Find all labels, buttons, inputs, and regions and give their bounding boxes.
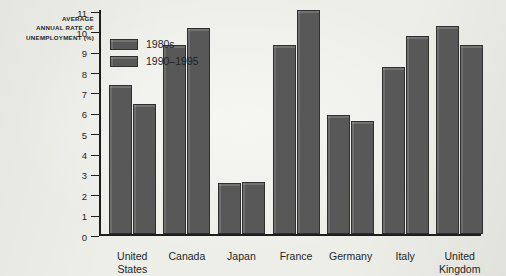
bar-group bbox=[273, 10, 320, 234]
y-axis-tick-label: 10 bbox=[76, 27, 87, 38]
bar bbox=[273, 45, 296, 234]
bar bbox=[382, 67, 405, 234]
bar bbox=[327, 115, 350, 234]
legend-label-series-0: 1980s bbox=[146, 38, 175, 50]
legend-item-series-1: 1990–1995 bbox=[110, 55, 199, 67]
bar bbox=[436, 26, 459, 234]
y-axis-tick: 4 bbox=[91, 155, 99, 156]
legend-swatch-icon-series-1 bbox=[110, 56, 138, 67]
bar bbox=[242, 182, 265, 234]
bar bbox=[351, 121, 374, 234]
y-axis-tick: 7 bbox=[91, 93, 99, 94]
y-axis-tick-label: 2 bbox=[82, 190, 87, 201]
y-axis-tick: 2 bbox=[91, 195, 99, 196]
legend: 1980s 1990–1995 bbox=[110, 38, 199, 72]
unemployment-bar-chart: AVERAGE ANNUAL RATE OF UNEMPLOYMENT (%) … bbox=[0, 0, 506, 276]
bar-group bbox=[382, 10, 429, 234]
y-axis-tick-label: 8 bbox=[82, 68, 87, 79]
bar-group bbox=[218, 10, 265, 234]
bar bbox=[218, 183, 241, 234]
y-axis-tick: 0 bbox=[91, 236, 99, 237]
bar bbox=[133, 104, 156, 234]
y-axis-tick: 1 bbox=[91, 216, 99, 217]
y-axis-tick-label: 9 bbox=[82, 48, 87, 59]
bar bbox=[297, 10, 320, 234]
y-axis-tick: 9 bbox=[91, 53, 99, 54]
y-axis-tick: 8 bbox=[91, 73, 99, 74]
y-axis-tick-label: 4 bbox=[82, 150, 87, 161]
x-axis-category-label: United Kingdom bbox=[418, 250, 501, 276]
y-axis-tick-label: 6 bbox=[82, 109, 87, 120]
legend-swatch-icon-series-0 bbox=[110, 39, 138, 50]
y-axis-tick-label: 0 bbox=[82, 231, 87, 242]
y-axis-tick-label: 3 bbox=[82, 170, 87, 181]
bar bbox=[406, 36, 429, 234]
legend-label-series-1: 1990–1995 bbox=[146, 55, 199, 67]
y-axis-tick: 6 bbox=[91, 114, 99, 115]
y-axis-tick-label: 5 bbox=[82, 129, 87, 140]
y-axis-tick: 11 bbox=[91, 12, 99, 13]
y-axis-tick-label: 7 bbox=[82, 88, 87, 99]
y-axis-tick-label: 1 bbox=[82, 211, 87, 222]
y-axis-tick: 5 bbox=[91, 134, 99, 135]
bar bbox=[163, 45, 186, 234]
bar bbox=[460, 45, 483, 234]
y-axis-tick: 10 bbox=[91, 32, 99, 33]
bar-group bbox=[436, 10, 483, 234]
bar bbox=[109, 85, 132, 234]
y-axis-tick: 3 bbox=[91, 175, 99, 176]
y-axis-tick-label: 11 bbox=[77, 7, 87, 18]
x-axis-line bbox=[99, 234, 481, 236]
legend-item-series-0: 1980s bbox=[110, 38, 199, 50]
bar-group bbox=[327, 10, 374, 234]
